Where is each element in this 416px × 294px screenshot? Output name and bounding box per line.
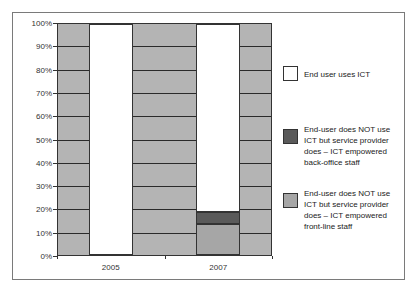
plot-area	[57, 23, 272, 256]
y-tick-label: 70%	[36, 88, 52, 97]
x-tick-label: 2007	[209, 263, 227, 272]
bar-2005	[89, 24, 133, 255]
y-tick-label: 90%	[36, 42, 52, 51]
y-tick-label: 50%	[36, 135, 52, 144]
legend-swatch-end-user-ict	[283, 66, 298, 81]
x-tick	[57, 256, 58, 259]
x-tick-label: 2005	[102, 263, 120, 272]
bar-2007	[196, 24, 240, 255]
y-tick-label: 20%	[36, 205, 52, 214]
bar-segment	[196, 224, 240, 255]
y-tick-label: 0%	[40, 252, 52, 261]
x-tick	[165, 256, 166, 259]
legend-label-back-office: End-user does NOT use ICT but service pr…	[304, 124, 404, 168]
y-tick-label: 10%	[36, 228, 52, 237]
y-tick-label: 60%	[36, 112, 52, 121]
bar-segment	[89, 24, 133, 255]
legend-label-front-line: End-user does NOT use ICT but service pr…	[304, 188, 404, 232]
legend-swatch-front-line	[283, 193, 298, 208]
bar-segment	[196, 212, 240, 224]
y-tick-label: 30%	[36, 182, 52, 191]
legend-swatch-back-office	[283, 129, 298, 144]
y-tick-label: 80%	[36, 65, 52, 74]
legend-label-end-user-ict: End user uses ICT	[304, 69, 404, 80]
y-tick-label: 100%	[32, 19, 52, 28]
bar-segment	[196, 24, 240, 212]
x-tick	[272, 256, 273, 259]
y-tick-label: 40%	[36, 158, 52, 167]
